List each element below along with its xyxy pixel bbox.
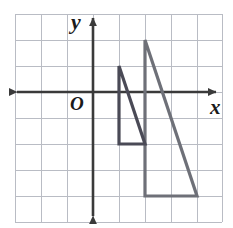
y-axis-label: y [71, 11, 81, 33]
x-axis-label: x [210, 97, 221, 118]
coordinate-plane-figure: y x O [0, 0, 233, 228]
small-triangle [119, 66, 145, 144]
plot-svg [0, 0, 233, 228]
origin-label: O [70, 94, 84, 113]
